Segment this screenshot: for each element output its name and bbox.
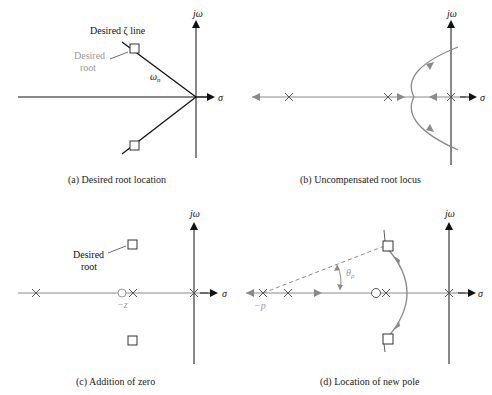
panel-a: jω σ Desired ζ line Desired root ωn (a) …	[18, 8, 224, 186]
root-locus-figure: jω σ Desired ζ line Desired root ωn (a) …	[0, 0, 492, 395]
zero-marker-icon	[118, 289, 126, 297]
locus-stub	[384, 230, 385, 241]
desired-root-marker-lower	[130, 141, 139, 150]
zero-label: −z	[117, 299, 128, 310]
angle-construction-line	[263, 245, 387, 293]
desired-root-leader	[108, 246, 126, 253]
desired-root-marker-upper	[128, 240, 137, 249]
locus-arrow-icon	[397, 93, 405, 101]
real-axis-label: σ	[478, 288, 484, 299]
theta-label: θp	[346, 267, 355, 280]
zeta-line-label: Desired ζ line	[90, 25, 146, 37]
theta-arrow-icon	[337, 284, 343, 290]
omega-n-label: ωn	[150, 71, 161, 84]
zero-marker-icon	[372, 289, 381, 298]
locus-arrow-icon	[429, 93, 437, 101]
desired-root-label-line2: root	[81, 261, 97, 272]
caption-a: (a) Desired root location	[68, 174, 166, 186]
locus-arrow-icon	[246, 289, 254, 297]
real-axis-label: σ	[222, 288, 228, 299]
imag-axis-label: jω	[443, 208, 455, 219]
desired-root-label-line2: root	[80, 62, 96, 73]
locus-arrow-icon	[394, 256, 400, 265]
panel-d: jω σ θp −p (d) Location of new pole	[246, 208, 484, 388]
desired-root-marker-upper	[383, 241, 393, 251]
locus-arrow-icon	[314, 289, 322, 297]
imag-axis-label: jω	[445, 8, 457, 19]
locus-arrow-icon	[252, 93, 260, 101]
real-axis-label: σ	[218, 92, 224, 103]
panel-b: jω σ (b) Uncompensated root locus	[252, 8, 486, 186]
desired-root-marker-lower	[128, 336, 137, 345]
imag-axis-label: jω	[188, 208, 200, 219]
caption-b: (b) Uncompensated root locus	[300, 174, 421, 186]
caption-d: (d) Location of new pole	[320, 376, 420, 388]
theta-arrow-icon	[334, 265, 340, 271]
locus-arrow-icon	[426, 124, 434, 132]
desired-root-marker-lower	[383, 334, 393, 344]
new-pole-label: −p	[254, 300, 266, 311]
caption-c: (c) Addition of zero	[76, 376, 155, 388]
locus-arrow-icon	[394, 321, 400, 330]
desired-root-leader	[110, 52, 128, 59]
desired-root-marker-upper	[130, 44, 139, 53]
desired-root-label-line1: Desired	[74, 50, 105, 61]
locus-stub	[384, 344, 385, 352]
imag-axis-label: jω	[191, 8, 203, 19]
panel-c: jω σ −z Desired root (c) Addition of zer…	[18, 208, 228, 388]
desired-root-label-line1: Desired	[73, 249, 104, 260]
real-axis-label: σ	[480, 92, 486, 103]
